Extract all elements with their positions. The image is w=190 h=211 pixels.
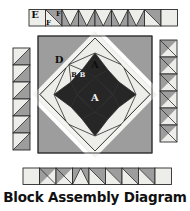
right-strip-hst-5	[160, 108, 177, 125]
bottom-strip-square-plain-left	[23, 168, 40, 185]
bottom-strip-hst-7	[139, 168, 156, 185]
left-strip-hst-6	[13, 133, 30, 150]
right-strip-hst-1	[160, 40, 177, 57]
label-a-top: A	[90, 59, 99, 70]
left-strip-hst-3	[13, 82, 30, 99]
bottom-strip-hst-4	[89, 168, 106, 185]
top-strip-hst-2	[62, 10, 79, 27]
right-strip-hst-6	[160, 125, 177, 142]
left-strip-hst-5	[13, 116, 30, 133]
top-strip-hst-6	[128, 10, 145, 27]
right-strip-hst-3	[160, 74, 177, 91]
right-strip-hst-2	[160, 57, 177, 74]
bottom-strip-hst-2	[56, 168, 73, 185]
bottom-strip-hst-1	[40, 168, 57, 185]
label-b-right: B	[80, 71, 86, 79]
top-strip-hst-4	[95, 10, 112, 27]
top-strip-hst-5	[112, 10, 129, 27]
label-f-lower: F	[46, 18, 51, 27]
top-strip-square-plain-right	[161, 10, 178, 27]
right-border-strip	[160, 40, 177, 142]
block-assembly-diagram: E F F D A B B A Block Assembly Diagram	[0, 0, 190, 211]
left-strip-hst-4	[13, 99, 30, 116]
label-f-upper: F	[56, 9, 61, 18]
bottom-border-strip	[23, 168, 172, 185]
label-a-center: A	[90, 92, 99, 103]
label-d: D	[55, 54, 64, 65]
top-strip-hst-3	[79, 10, 96, 27]
label-e: E	[31, 9, 39, 20]
right-strip-hst-4	[160, 91, 177, 108]
bottom-strip-hst-3	[73, 168, 90, 185]
bottom-strip-hst-5	[106, 168, 123, 185]
diagram-canvas: E F F D A B B A	[0, 0, 190, 211]
top-strip-hst-7	[145, 10, 162, 27]
figure-title: Block Assembly Diagram	[0, 189, 190, 205]
left-strip-hst-1	[13, 48, 30, 65]
left-border-strip	[13, 48, 30, 150]
top-border-strip	[29, 10, 178, 27]
label-b-left: B	[71, 71, 77, 79]
bottom-strip-square-plain-right	[155, 168, 172, 185]
bottom-strip-hst-6	[122, 168, 139, 185]
left-strip-hst-2	[13, 65, 30, 82]
